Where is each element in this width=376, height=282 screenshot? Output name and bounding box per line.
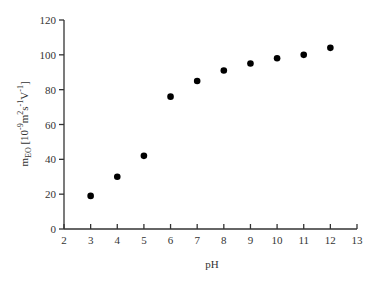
- y-tick-label: 60: [45, 119, 57, 131]
- x-tick-label: 4: [115, 234, 121, 246]
- data-point: [221, 67, 228, 74]
- y-axis-title: mEO [10-9m2s-1V-1]: [16, 81, 33, 166]
- y-tick-label: 20: [45, 188, 57, 200]
- y-axis-title-exp4: -1: [16, 85, 25, 92]
- data-point: [87, 193, 94, 200]
- x-tick-label: 8: [221, 234, 227, 246]
- y-axis-title-unit3: V: [18, 92, 30, 100]
- data-point: [167, 93, 174, 100]
- y-axis-ticks: 020406080100120: [40, 14, 65, 235]
- y-tick-label: 100: [40, 49, 57, 61]
- scatter-chart: 020406080100120 2345678910111213 pH mEO …: [0, 0, 376, 282]
- y-tick-label: 0: [51, 223, 57, 235]
- y-axis-title-sub: EO: [24, 147, 33, 158]
- y-tick-label: 80: [45, 84, 57, 96]
- axes: [64, 20, 357, 229]
- data-points: [87, 45, 333, 200]
- data-point: [114, 173, 121, 180]
- y-tick-label: 120: [40, 14, 57, 26]
- y-axis-title-exp3: -1: [16, 100, 25, 107]
- x-tick-label: 13: [352, 234, 364, 246]
- x-tick-label: 3: [88, 234, 94, 246]
- x-tick-label: 6: [168, 234, 174, 246]
- y-axis-title-bracket-open: [10: [18, 129, 30, 147]
- data-point: [141, 153, 148, 160]
- y-axis-title-bracket-close: ]: [18, 81, 30, 85]
- data-point: [247, 60, 254, 67]
- data-point: [300, 52, 307, 59]
- data-point: [274, 55, 281, 62]
- data-point: [327, 45, 334, 52]
- data-point: [194, 78, 201, 85]
- x-tick-label: 2: [61, 234, 67, 246]
- x-tick-label: 5: [141, 234, 147, 246]
- x-tick-label: 9: [248, 234, 254, 246]
- x-tick-label: 10: [272, 234, 284, 246]
- x-axis-ticks: 2345678910111213: [61, 224, 363, 246]
- x-tick-label: 12: [325, 234, 336, 246]
- x-tick-label: 7: [194, 234, 200, 246]
- y-tick-label: 40: [45, 153, 57, 165]
- y-axis-title-exp1: -9: [16, 123, 25, 130]
- x-axis-title: pH: [205, 258, 219, 270]
- x-tick-label: 11: [298, 234, 309, 246]
